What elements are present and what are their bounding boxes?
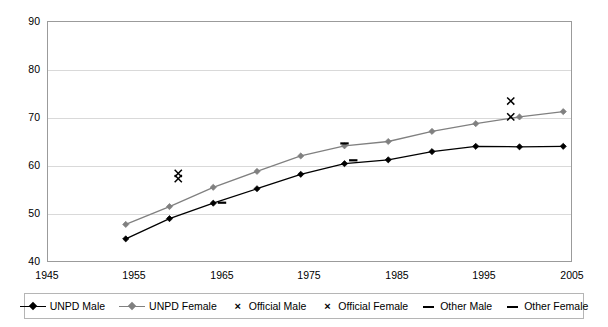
x-tick-label: 1995 xyxy=(454,270,514,280)
chart-legend: UNPD Male UNPD Female × Official Male × … xyxy=(24,293,584,319)
y-tick-label: 60 xyxy=(0,160,40,170)
y-tick-label: 70 xyxy=(0,112,40,122)
x-tick-label: 1955 xyxy=(104,270,164,280)
legend-item-unpd-male[interactable]: UNPD Male xyxy=(20,301,105,312)
legend-label: Other Male xyxy=(440,301,492,312)
x-tick-label: 1945 xyxy=(17,270,77,280)
legend-label: UNPD Female xyxy=(149,301,217,312)
x-tick-label: 2005 xyxy=(542,270,602,280)
line-diamond-icon xyxy=(119,301,145,312)
y-tick-label: 40 xyxy=(0,256,40,266)
legend-label: Official Female xyxy=(338,301,408,312)
y-tick-label: 80 xyxy=(0,64,40,74)
x-tick-label: 1965 xyxy=(192,270,252,280)
chart-container: 90 80 70 60 50 40 1945 1955 1965 1975 19… xyxy=(0,0,608,327)
legend-item-unpd-female[interactable]: UNPD Female xyxy=(119,301,217,312)
x-tick-label: 1985 xyxy=(367,270,427,280)
legend-item-other-female[interactable]: Other Female xyxy=(506,301,588,312)
y-tick-label: 90 xyxy=(0,16,40,26)
dash-marker-icon xyxy=(422,301,436,312)
legend-label: UNPD Male xyxy=(50,301,105,312)
x-tick-label: 1975 xyxy=(279,270,339,280)
line-diamond-icon xyxy=(20,301,46,312)
x-marker-icon: × xyxy=(231,301,245,312)
legend-item-official-female[interactable]: × Official Female xyxy=(320,301,408,312)
legend-label: Official Male xyxy=(249,301,307,312)
legend-item-official-male[interactable]: × Official Male xyxy=(231,301,307,312)
legend-label: Other Female xyxy=(524,301,588,312)
legend-item-other-male[interactable]: Other Male xyxy=(422,301,492,312)
y-tick-label: 50 xyxy=(0,208,40,218)
x-marker-icon: × xyxy=(320,301,334,312)
dash-marker-icon xyxy=(506,301,520,312)
